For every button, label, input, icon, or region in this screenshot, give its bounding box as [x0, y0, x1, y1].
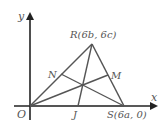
triangle-ORS — [30, 44, 124, 106]
median-OM — [30, 75, 108, 106]
origin-label: O — [17, 108, 26, 121]
y-axis-label: y — [17, 10, 25, 23]
point-R-label: R(6b, 6c) — [69, 29, 117, 40]
side-OR — [30, 44, 92, 106]
triangle-diagram: y x O R(6b, 6c) S(6a, 0) J N M — [0, 0, 163, 129]
medians — [30, 44, 124, 106]
median-RJ — [78, 44, 92, 106]
point-N-label: N — [47, 69, 58, 80]
point-J-label: J — [71, 109, 78, 120]
point-S-label: S(6a, 0) — [107, 109, 147, 120]
x-axis-label: x — [151, 91, 158, 104]
point-M-label: M — [110, 70, 122, 81]
